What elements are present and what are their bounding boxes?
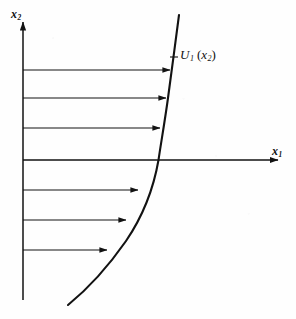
velocity-profile-label: U1(x2) xyxy=(180,48,216,63)
profile-label-subscript: 1 xyxy=(189,54,194,63)
y-axis-label-subscript: 2 xyxy=(17,13,21,22)
profile-label-close-paren: ) xyxy=(212,47,216,62)
figure-canvas xyxy=(0,0,296,319)
y-axis-label: x2 xyxy=(11,8,21,22)
profile-label-base: U xyxy=(180,47,189,62)
x-axis-label: x1 xyxy=(272,145,282,159)
velocity-profile-figure: x2 x1 U1(x2) xyxy=(0,0,296,319)
x-axis-label-subscript: 1 xyxy=(278,150,282,159)
